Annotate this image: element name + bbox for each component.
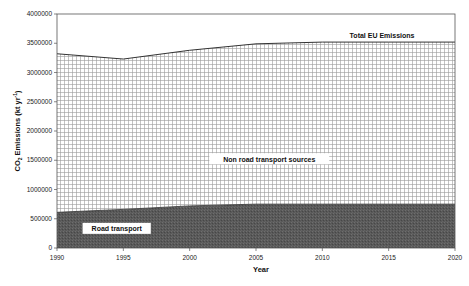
area-chart: 0500000100000015000002000000250000030000… xyxy=(0,0,469,286)
y-tick-label: 1000000 xyxy=(27,186,53,193)
x-tick-label: 1995 xyxy=(116,254,131,261)
label-text: Road transport xyxy=(92,225,143,233)
y-tick-label: 4000000 xyxy=(27,10,53,17)
road-transport-label: Road transport xyxy=(83,223,151,234)
y-tick-label: 2000000 xyxy=(27,127,53,134)
y-tick-label: 1500000 xyxy=(27,156,53,163)
x-tick-label: 2015 xyxy=(381,254,396,261)
y-tick-label: 0 xyxy=(48,244,52,251)
non-road-transport-area xyxy=(57,42,455,212)
non-road-transport-label: Non road transport sources xyxy=(209,153,329,164)
x-tick-label: 1990 xyxy=(50,254,65,261)
chart: 0500000100000015000002000000250000030000… xyxy=(0,0,469,286)
x-tick-label: 2000 xyxy=(182,254,197,261)
x-tick-label: 2020 xyxy=(448,254,463,261)
x-tick-label: 2005 xyxy=(249,254,264,261)
x-axis-title: Year xyxy=(253,265,269,274)
y-tick-label: 500000 xyxy=(30,215,52,222)
total-emissions-label: Total EU Emissions xyxy=(350,32,415,39)
plot-area xyxy=(57,42,455,248)
label-text: Non road transport sources xyxy=(223,156,315,164)
y-tick-label: 3000000 xyxy=(27,69,53,76)
y-axis-title: CO2 Emissions (kt yr-1) xyxy=(12,90,23,172)
y-tick-label: 2500000 xyxy=(27,98,53,105)
label-text: Total EU Emissions xyxy=(350,32,415,39)
y-tick-label: 3500000 xyxy=(27,39,53,46)
x-tick-label: 2010 xyxy=(315,254,330,261)
